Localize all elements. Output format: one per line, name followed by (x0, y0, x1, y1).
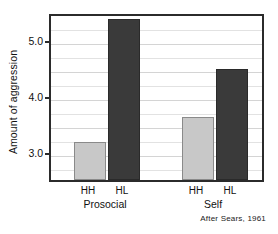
bar-self-hl (216, 69, 248, 180)
x-tick-label: HL (105, 185, 139, 196)
group-label-self: Self (168, 198, 258, 210)
y-tick-label: 4.0 (3, 91, 43, 103)
bar-chart-figure: Amount of aggression 3.04.05.0 HHHLHHHL … (0, 0, 278, 234)
source-annotation: After Sears, 1961 (200, 214, 266, 223)
bar-prosocial-hh (74, 142, 106, 180)
x-tick-label: HL (213, 185, 247, 196)
bar-self-hh (182, 117, 214, 180)
group-label-prosocial: Prosocial (60, 198, 150, 210)
x-tick-label: HH (71, 185, 105, 196)
y-tick-label: 3.0 (3, 147, 43, 159)
x-tick-label: HH (179, 185, 213, 196)
bar-prosocial-hl (108, 19, 140, 180)
plot-area (49, 14, 264, 182)
bar-series (51, 16, 262, 180)
y-tick-label: 5.0 (3, 35, 43, 47)
